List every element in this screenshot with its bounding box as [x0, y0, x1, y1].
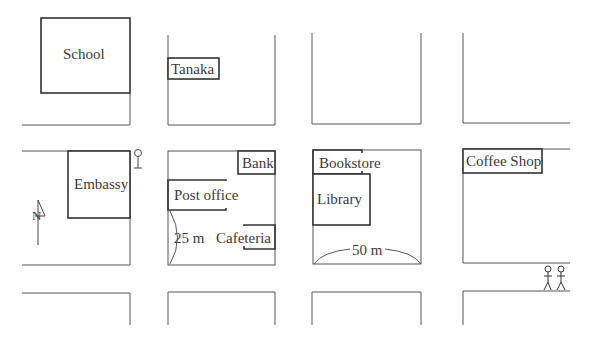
block-row1-col2 [168, 35, 275, 125]
bookstore-label: Bookstore [319, 156, 381, 171]
bus-stop-sign-icon [134, 150, 142, 169]
school-label: School [63, 47, 105, 62]
block-row3-col3 [312, 292, 421, 325]
distance-25m-label: 25 m [174, 231, 204, 246]
block-row1-col1 [22, 93, 130, 125]
bank-label: Bank [242, 156, 274, 171]
tanaka-label: Tanaka [171, 62, 214, 77]
block-row1-col3 [312, 33, 421, 124]
block-row3-col1 [22, 293, 130, 325]
post-office-label: Post office [174, 188, 238, 203]
library-label: Library [317, 192, 362, 207]
embassy-label: Embassy [74, 177, 128, 192]
coffee-shop-label: Coffee Shop [466, 154, 541, 169]
distance-50m-label: 50 m [352, 243, 382, 258]
cafeteria-label: Cafeteria [216, 231, 271, 246]
block-row1-col4 [463, 33, 570, 123]
compass-label: N [32, 209, 41, 222]
pedestrians-icon [544, 266, 565, 290]
block-row3-col2 [168, 292, 275, 325]
block-row3-col4 [463, 291, 570, 325]
